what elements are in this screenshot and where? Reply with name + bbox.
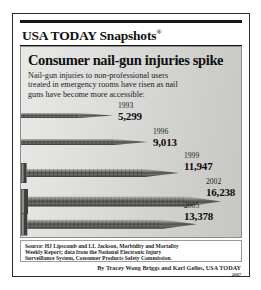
nail-year: 1999: [184, 152, 212, 160]
nail-data-label: 199911,947: [184, 152, 212, 172]
masthead-title: USA TODAY Snapshots®: [20, 23, 242, 44]
nail-icon: [21, 110, 113, 121]
nail-icon: [21, 160, 179, 186]
nail-icon: [21, 210, 197, 238]
source-line: Surveillance System, Consumer Products S…: [25, 255, 237, 261]
source-box: Source: HJ Lipscomb and LL Jackson, Morb…: [20, 240, 242, 262]
nail-row: 19969,013: [21, 136, 242, 148]
registered-mark: ®: [156, 28, 161, 36]
nail-icon: [21, 136, 148, 148]
nail-chart: 19935,29919969,013199911,947200216,23820…: [21, 110, 242, 228]
subhead-line: treated in emergency rooms have risen as…: [28, 80, 233, 89]
nail-data-label: 200513,378: [184, 202, 213, 222]
content-panel: Consumer nail-gun injuries spike Nail-gu…: [20, 46, 242, 238]
nail-row: 19935,299: [21, 110, 242, 121]
nail-data-label: 19935,299: [118, 102, 142, 122]
subhead-line: Nail-gun injuries to non-professional us…: [28, 71, 233, 80]
nail-value: 9,013: [153, 136, 177, 148]
byline-year: 2007: [97, 272, 241, 278]
subhead-line: guns have become more accessible:: [28, 90, 233, 99]
nail-data-label: 19969,013: [153, 128, 177, 148]
nail-year: 1996: [153, 128, 177, 136]
nail-value: 5,299: [118, 110, 142, 122]
nail-value: 16,238: [206, 186, 235, 198]
headline: Consumer nail-gun injuries spike: [21, 47, 241, 68]
nail-value: 11,947: [184, 160, 212, 172]
byline-credit: By Tracey Wong Briggs and Karl Gelles, U…: [97, 264, 241, 271]
nail-value: 13,378: [184, 210, 213, 222]
usa-today-snapshot-card: USA TODAY Snapshots® Consumer nail-gun i…: [12, 13, 250, 277]
nail-year: 2005: [184, 202, 213, 210]
masthead: USA TODAY Snapshots®: [20, 20, 242, 46]
masthead-title-text: USA TODAY Snapshots: [22, 28, 156, 43]
nail-year: 1993: [118, 102, 142, 110]
nail-row: 200513,378: [21, 210, 242, 238]
subhead: Nail-gun injuries to non-professional us…: [21, 68, 241, 99]
nail-data-label: 200216,238: [206, 178, 235, 198]
nail-year: 2002: [206, 178, 235, 186]
byline: By Tracey Wong Briggs and Karl Gelles, U…: [97, 264, 241, 278]
